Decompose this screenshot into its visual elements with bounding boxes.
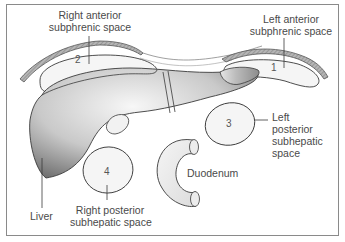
label-right-posterior-subhepatic: Right posterior subhepatic space	[70, 204, 150, 228]
space-number-1: 1	[271, 62, 277, 73]
label-left-anterior-subphrenic: Left anterior subphrenic space	[245, 13, 337, 37]
diagram-canvas: 2 1 3 4 Right anterior subphrenic space …	[0, 0, 345, 242]
label-right-anterior-subphrenic: Right anterior subphrenic space	[46, 9, 134, 33]
space-number-2: 2	[75, 54, 81, 65]
label-duodenum: Duodenum	[187, 167, 238, 179]
label-left-posterior-subhepatic: Left posterior subhepatic space	[272, 111, 323, 159]
space-number-3: 3	[226, 118, 232, 129]
space-number-4: 4	[104, 166, 110, 177]
label-liver: Liver	[30, 210, 53, 222]
